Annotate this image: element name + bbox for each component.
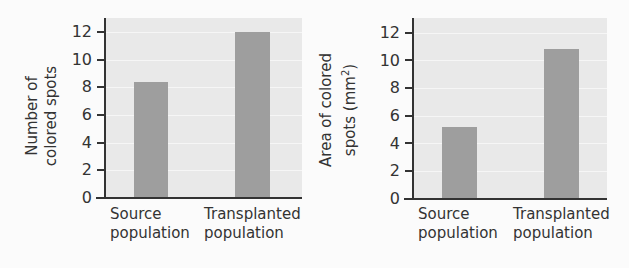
y-axis-label: Number of colored spots: [23, 51, 63, 181]
category-label-line: Source: [110, 205, 190, 224]
y-tick: [97, 59, 104, 61]
y-axis-label-line1: Area of colored: [317, 40, 336, 180]
y-tick-label: 6: [68, 107, 92, 123]
category-label-line: population: [110, 224, 190, 243]
superscript: 2: [340, 70, 351, 76]
y-tick-label: 2: [376, 163, 400, 179]
bar-transplanted-population: [235, 32, 270, 198]
y-tick-label: 10: [376, 53, 400, 69]
category-label-line: population: [418, 224, 498, 243]
y-tick: [405, 170, 412, 172]
x-axis: [404, 198, 607, 200]
y-tick: [405, 32, 412, 34]
y-tick-label: 4: [68, 135, 92, 151]
y-tick: [97, 142, 104, 144]
y-axis-label-text: ): [341, 64, 359, 70]
chart-number-of-spots: Number of colored spots 0 2 4 6 8 10 12 …: [0, 0, 315, 268]
category-label-source: Source population: [110, 205, 190, 243]
y-tick-label: 0: [68, 190, 92, 206]
y-tick: [97, 31, 104, 33]
category-label-line: Source: [418, 205, 498, 224]
x-axis: [96, 197, 302, 199]
y-tick: [405, 142, 412, 144]
y-tick-label: 2: [68, 162, 92, 178]
category-label-line: population: [204, 224, 301, 243]
y-tick-label: 12: [376, 25, 400, 41]
y-tick-label: 0: [376, 191, 400, 207]
y-axis-label-text: spots (mm: [341, 76, 359, 156]
y-axis-label: Area of colored spots (mm2): [317, 40, 357, 180]
y-tick-label: 6: [376, 108, 400, 124]
bar-source-population: [134, 82, 168, 198]
category-label-source: Source population: [418, 205, 498, 243]
y-tick-label: 12: [68, 24, 92, 40]
y-tick: [405, 87, 412, 89]
y-tick-label: 10: [68, 52, 92, 68]
gridline: [106, 60, 302, 61]
chart-area-of-spots: Area of colored spots (mm2) 0 2 4 6 8 10…: [315, 0, 629, 268]
y-tick-label: 8: [376, 80, 400, 96]
bar-transplanted-population: [544, 49, 579, 199]
y-axis-label-line1: Number of: [23, 51, 42, 181]
gridline: [414, 33, 607, 34]
bar-source-population: [442, 127, 477, 199]
gridline: [106, 32, 302, 33]
y-axis: [412, 18, 414, 200]
category-label-line: Transplanted: [204, 205, 301, 224]
category-label-transplanted: Transplanted population: [513, 205, 610, 243]
category-label-line: population: [513, 224, 610, 243]
category-label-line: Transplanted: [513, 205, 610, 224]
y-tick: [97, 86, 104, 88]
y-tick: [97, 114, 104, 116]
y-axis: [104, 18, 106, 199]
y-tick-label: 8: [68, 79, 92, 95]
y-tick: [405, 59, 412, 61]
y-tick: [405, 115, 412, 117]
y-tick: [97, 169, 104, 171]
y-axis-label-line2: spots (mm2): [336, 40, 360, 180]
y-tick-label: 4: [376, 136, 400, 152]
y-axis-label-line2: colored spots: [42, 51, 61, 181]
category-label-transplanted: Transplanted population: [204, 205, 301, 243]
